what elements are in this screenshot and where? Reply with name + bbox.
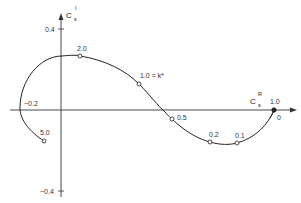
y-axis-arrow-icon xyxy=(59,13,64,20)
y-tick-label-top: 0.4 xyxy=(45,26,55,33)
point-marker-2 xyxy=(78,54,82,58)
point-label-5: 5.0 xyxy=(40,129,50,136)
point-label-end-bottom: 0 xyxy=(277,114,281,121)
x-tick-label-left: −0.2 xyxy=(24,100,38,107)
x-axis-label-sup: R xyxy=(258,91,262,97)
point-label-1-kstar: 1.0 = k* xyxy=(140,72,164,79)
point-marker-02 xyxy=(208,140,212,144)
leader-line xyxy=(270,111,274,118)
point-marker-5 xyxy=(42,139,46,143)
point-label-01: 0.1 xyxy=(235,132,245,139)
point-label-05: 0.5 xyxy=(177,114,187,121)
diagram-canvas: C s I C s R 0.4 −0.4 −0.2 5.0 2.0 1.0 = … xyxy=(0,0,301,203)
y-axis-label-sub: s xyxy=(74,16,77,22)
point-label-end-top: 1.0 xyxy=(270,98,280,105)
x-axis-label-sub: s xyxy=(258,102,261,108)
x-axis-label: C xyxy=(250,97,256,106)
y-tick-label-bottom: −0.4 xyxy=(40,188,54,195)
x-axis-arrow-icon xyxy=(290,108,297,113)
y-axis-label: C xyxy=(66,11,72,20)
point-marker-05 xyxy=(170,117,174,121)
point-marker-01 xyxy=(235,141,239,145)
y-axis-label-sup: I xyxy=(75,5,77,11)
nyquist-diagram: C s I C s R 0.4 −0.4 −0.2 5.0 2.0 1.0 = … xyxy=(0,0,301,203)
point-label-2: 2.0 xyxy=(77,45,87,52)
point-marker-1 xyxy=(137,82,141,86)
point-label-02: 0.2 xyxy=(209,131,219,138)
